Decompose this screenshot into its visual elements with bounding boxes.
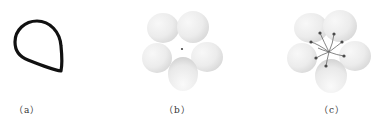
anther-dot [318,31,321,34]
anther-dot [332,32,335,35]
petal-top-right [323,10,357,42]
petal-left [142,43,172,73]
anther-dot [309,40,312,43]
petal-top-right [177,11,209,43]
panel-c-label: （c） [319,103,345,116]
panel-a-label: （a） [14,103,40,116]
anther-dot [314,56,317,59]
panel-b-flower [142,11,223,91]
petal-bottom [168,57,198,91]
teardrop-outline-shape [15,21,62,71]
anther-dot [342,54,345,57]
panel-b-label: （b） [164,103,191,116]
anther-dot [340,40,343,43]
panel-c-flower [287,10,371,93]
petal-bottom [315,59,347,93]
petal-left [287,43,317,73]
panel-a-teardrop [15,21,62,71]
anther-dot [324,64,327,67]
flower-center-dot [181,48,183,50]
petal-top-left [147,13,179,43]
